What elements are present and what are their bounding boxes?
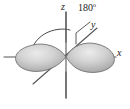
orbital-figure: z y x 180o — [0, 0, 130, 109]
orbital-diagram-svg — [0, 0, 130, 109]
z-axis-label: z — [61, 2, 65, 12]
degree-symbol: o — [93, 2, 96, 8]
p-orbital-lobe-left — [16, 44, 66, 71]
x-axis-label: x — [117, 48, 121, 58]
angle-annotation-label: 180o — [78, 2, 96, 13]
y-axis-label: y — [91, 20, 95, 30]
angle-value: 180 — [78, 2, 93, 13]
p-orbital-lobe-right — [66, 43, 114, 72]
